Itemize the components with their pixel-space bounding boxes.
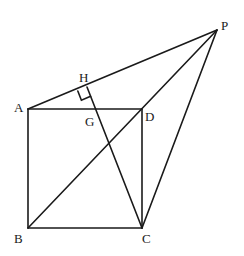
- segment-bp: [28, 30, 217, 228]
- label-b: B: [14, 231, 23, 246]
- label-d: D: [145, 109, 154, 124]
- label-a: A: [14, 100, 24, 115]
- label-p: P: [221, 18, 228, 33]
- segment-cp: [142, 30, 217, 228]
- label-h: H: [79, 70, 88, 85]
- label-c: C: [142, 231, 151, 246]
- segment-ap: [28, 30, 217, 109]
- geometry-diagram: A B C D P H G: [0, 0, 244, 256]
- label-g: G: [85, 114, 94, 129]
